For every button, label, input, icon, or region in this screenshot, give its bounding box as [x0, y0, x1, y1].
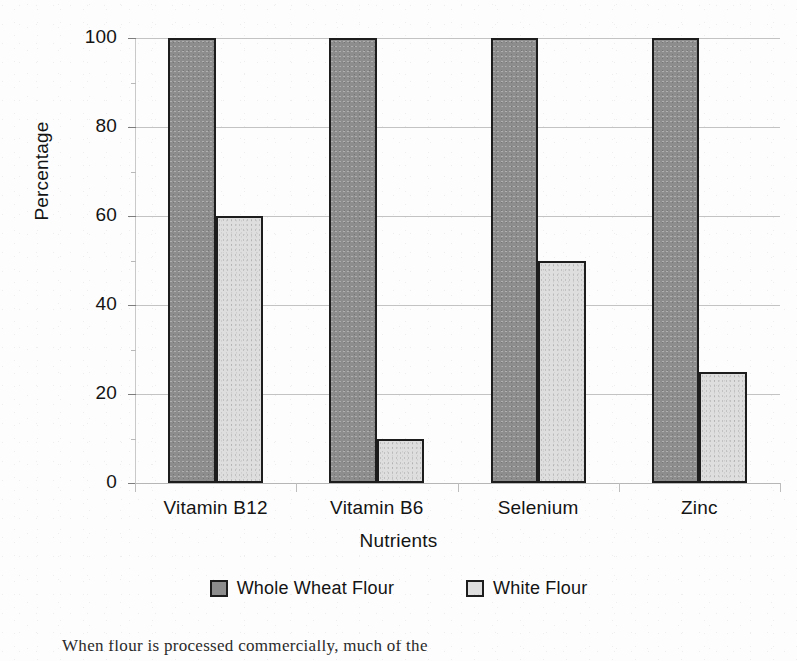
y-minor-tick-10	[131, 439, 136, 440]
x-axis-label-selenium: Selenium	[458, 497, 619, 519]
y-tick-label-40: 40	[0, 293, 117, 315]
chart-legend: Whole Wheat FlourWhite Flour	[0, 578, 797, 599]
legend-entry-white-flour: White Flour	[466, 578, 587, 599]
x-axis-tick-0	[135, 483, 136, 492]
x-axis-label-vitamin-b12: Vitamin B12	[135, 497, 296, 519]
bar-vitamin-b12-whole-wheat-flour	[168, 38, 216, 483]
x-axis-label-zinc: Zinc	[619, 497, 780, 519]
bar-selenium-white-flour	[538, 261, 586, 484]
y-tick-label-0: 0	[0, 471, 117, 493]
y-tick-label-80: 80	[0, 115, 117, 137]
x-axis-tick-2	[458, 483, 459, 492]
page-caption-text: When flour is processed commercially, mu…	[62, 640, 428, 656]
legend-entry-whole-wheat-flour: Whole Wheat Flour	[210, 578, 394, 599]
bar-vitamin-b6-whole-wheat-flour	[329, 38, 377, 483]
y-minor-tick-90	[131, 83, 136, 84]
x-axis-tick-1	[296, 483, 297, 492]
bar-zinc-white-flour	[699, 372, 747, 483]
page-caption-clip: When flour is processed commercially, mu…	[0, 640, 797, 661]
legend-label-whole-wheat-flour: Whole Wheat Flour	[237, 578, 394, 599]
bar-zinc-whole-wheat-flour	[652, 38, 700, 483]
y-minor-tick-70	[131, 172, 136, 173]
y-tick-80	[128, 127, 136, 128]
y-tick-60	[128, 216, 136, 217]
bar-vitamin-b12-white-flour	[216, 216, 264, 483]
legend-swatch-white-flour	[466, 580, 484, 597]
y-tick-label-100: 100	[0, 26, 117, 48]
y-tick-40	[128, 305, 136, 306]
y-tick-label-20: 20	[0, 382, 117, 404]
y-minor-tick-50	[131, 261, 136, 262]
legend-label-white-flour: White Flour	[493, 578, 587, 599]
bar-vitamin-b6-white-flour	[377, 439, 425, 484]
y-tick-20	[128, 394, 136, 395]
x-axis-title: Nutrients	[0, 530, 797, 552]
x-axis-tick-3	[619, 483, 620, 492]
y-tick-100	[128, 38, 136, 39]
y-tick-label-60: 60	[0, 204, 117, 226]
legend-swatch-whole-wheat-flour	[210, 580, 228, 597]
bar-chart-figure: Percentage 020406080100 Vitamin B12Vitam…	[0, 0, 797, 661]
bar-selenium-whole-wheat-flour	[491, 38, 539, 483]
x-axis-label-vitamin-b6: Vitamin B6	[296, 497, 457, 519]
x-axis-tick-4	[780, 483, 781, 492]
plot-area	[135, 38, 780, 483]
y-minor-tick-30	[131, 350, 136, 351]
y-axis-title: Percentage	[31, 71, 53, 271]
